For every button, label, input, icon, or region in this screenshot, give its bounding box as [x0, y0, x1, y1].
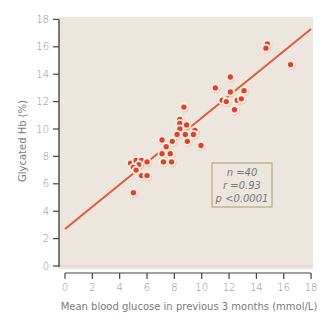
y-tick-label: 18 [36, 14, 49, 25]
x-tick-label: 4 [116, 282, 122, 293]
x-axis: 024681012141618 [62, 273, 318, 293]
x-tick-label: 0 [62, 282, 68, 293]
y-tick-label: 8 [43, 151, 49, 162]
x-tick-label: 14 [250, 282, 263, 293]
y-tick-label: 10 [36, 124, 49, 135]
y-axis-label: Glycated Hb (%) [17, 100, 28, 182]
x-tick-label: 8 [171, 282, 177, 293]
scatter-chart: 024681012141618 024681012141618 n =40 r … [0, 0, 330, 320]
y-tick-label: 2 [43, 233, 49, 244]
stats-p: p <0.0001 [215, 193, 269, 204]
x-tick-label: 10 [195, 282, 208, 293]
x-tick-label: 6 [144, 282, 150, 293]
stats-r: r =0.93 [223, 180, 261, 191]
stats-n: n =40 [227, 167, 258, 178]
x-tick-label: 2 [89, 282, 95, 293]
x-tick-label: 16 [277, 282, 290, 293]
x-axis-label: Mean blood glucose in previous 3 months … [61, 301, 318, 312]
x-tick-label: 18 [305, 282, 318, 293]
y-axis: 024681012141618 [36, 14, 59, 272]
x-tick-label: 12 [223, 282, 236, 293]
y-tick-label: 6 [43, 178, 49, 189]
y-tick-label: 4 [43, 206, 49, 217]
y-tick-label: 12 [36, 96, 49, 107]
y-tick-label: 14 [36, 69, 49, 80]
y-tick-label: 16 [36, 41, 49, 52]
stats-annotation-box: n =40 r =0.93 p <0.0001 [212, 163, 272, 207]
y-tick-label: 0 [43, 261, 49, 272]
